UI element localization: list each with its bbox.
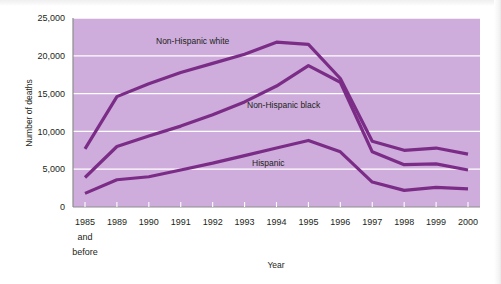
x-axis-tick-label: 1991 <box>171 217 191 227</box>
series-annotation-label: Non-Hispanic white <box>156 36 229 46</box>
figure-container: 05,00010,00015,00020,00025,000 1985andbe… <box>0 0 501 284</box>
x-axis-title: Year <box>267 260 284 270</box>
x-axis-tick-label: 1990 <box>139 217 159 227</box>
line-chart: 05,00010,00015,00020,00025,000 1985andbe… <box>0 0 501 284</box>
x-axis-tick-label: 1999 <box>426 217 446 227</box>
y-axis-tick-label: 25,000 <box>37 13 65 23</box>
series-annotation-label: Hispanic <box>252 158 285 168</box>
x-axis-tick-label: 2000 <box>458 217 478 227</box>
x-axis-tick-label: 1985 <box>75 217 95 227</box>
x-axis-tick-label: 1992 <box>203 217 223 227</box>
x-axis-tick-label: 1997 <box>362 217 382 227</box>
y-axis-tick-label: 20,000 <box>37 51 65 61</box>
x-axis-tick-labels: 1985andbefore198919901991199219931994199… <box>72 217 478 257</box>
y-axis-title: Number of deaths <box>24 79 34 147</box>
x-axis-tick-label: 1998 <box>394 217 414 227</box>
y-axis-tick-labels: 05,00010,00015,00020,00025,000 <box>37 13 65 212</box>
x-axis-tick-label: 1993 <box>235 217 255 227</box>
x-axis-tick-label: 1995 <box>298 217 318 227</box>
y-axis-tick-label: 0 <box>60 202 65 212</box>
x-axis-tick-label-extra: and <box>77 232 92 242</box>
x-axis-tick-label: 1996 <box>330 217 350 227</box>
y-axis-tick-label: 5,000 <box>42 164 65 174</box>
series-annotation-label: Non-Hispanic black <box>247 100 321 110</box>
y-axis-tick-label: 15,000 <box>37 89 65 99</box>
x-axis-tick-label: 1989 <box>107 217 127 227</box>
y-axis-tick-label: 10,000 <box>37 127 65 137</box>
x-axis-tick-label-extra: before <box>72 247 98 257</box>
x-axis-tick-label: 1994 <box>266 217 286 227</box>
